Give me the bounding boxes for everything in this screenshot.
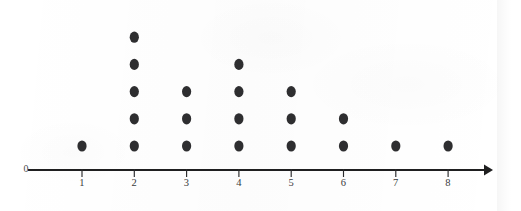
- dot-plot-canvas: 12345678 0: [0, 0, 521, 211]
- data-dot: [287, 86, 296, 97]
- dot-stack-3: [182, 86, 191, 152]
- axis-origin-label: 0: [24, 163, 29, 174]
- dot-plot-figure: 12345678 0: [0, 0, 521, 211]
- data-dot: [182, 140, 191, 151]
- data-dot: [339, 140, 348, 151]
- tick-label-6: 6: [341, 177, 346, 188]
- tick-label-8: 8: [445, 177, 450, 188]
- axis-arrow-icon: [484, 165, 493, 176]
- data-dot: [234, 86, 243, 97]
- axis-tick-8: 8: [445, 169, 450, 188]
- data-dot: [391, 140, 400, 151]
- tick-label-4: 4: [236, 177, 242, 188]
- dot-stack-5: [287, 86, 296, 152]
- axis-tick-6: 6: [341, 169, 346, 188]
- data-dot: [130, 140, 139, 151]
- data-dot: [234, 59, 243, 70]
- dot-stack-6: [339, 113, 348, 151]
- axis-tick-7: 7: [393, 169, 398, 188]
- dot-stack-4: [234, 59, 243, 152]
- data-dot: [130, 59, 139, 70]
- data-dot: [182, 86, 191, 97]
- dot-stack-2: [130, 32, 139, 152]
- axis-tick-4: 4: [236, 169, 242, 188]
- data-dot: [130, 32, 139, 43]
- tick-label-7: 7: [393, 177, 398, 188]
- data-dot: [182, 113, 191, 124]
- axis-ticks-layer: 12345678: [79, 169, 451, 188]
- data-dot: [287, 113, 296, 124]
- tick-label-5: 5: [288, 177, 293, 188]
- data-dot: [234, 140, 243, 151]
- data-dot: [234, 113, 243, 124]
- axis-tick-3: 3: [184, 169, 189, 188]
- dot-stack-7: [391, 140, 400, 151]
- dot-stack-8: [444, 140, 453, 151]
- dots-layer: [77, 32, 452, 152]
- axis-tick-2: 2: [132, 169, 137, 188]
- tick-label-1: 1: [79, 177, 84, 188]
- data-dot: [444, 140, 453, 151]
- data-dot: [77, 140, 86, 151]
- dot-stack-1: [77, 140, 86, 151]
- number-line-axis: [28, 165, 493, 176]
- axis-tick-5: 5: [288, 169, 293, 188]
- tick-label-2: 2: [132, 177, 137, 188]
- tick-label-3: 3: [184, 177, 189, 188]
- data-dot: [130, 113, 139, 124]
- data-dot: [130, 86, 139, 97]
- axis-tick-1: 1: [79, 169, 84, 188]
- data-dot: [287, 140, 296, 151]
- data-dot: [339, 113, 348, 124]
